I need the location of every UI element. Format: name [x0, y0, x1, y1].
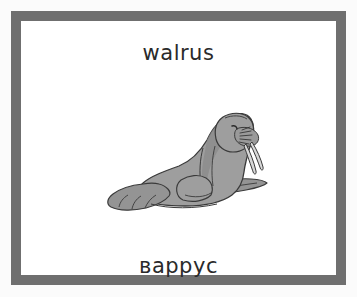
english-word-label: walrus [21, 43, 336, 64]
vocabulary-flashcard: walrus [11, 11, 346, 285]
flashcard-inner: walrus [21, 21, 336, 275]
cyrillic-word-label: варрус [21, 256, 336, 277]
haunch-shape [177, 176, 213, 202]
walrus-figure [108, 113, 267, 210]
walrus-illustration [99, 96, 274, 221]
